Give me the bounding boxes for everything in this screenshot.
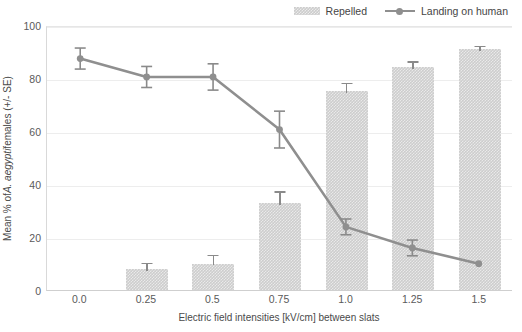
x-axis-title: Electric field intensities [kV/cm] betwe… xyxy=(46,312,512,323)
chart-legend: Repelled Landing on human xyxy=(0,2,522,20)
x-axis-tick-labels: 0.00.250.50.751.01.251.5 xyxy=(46,293,512,309)
line-data-point xyxy=(77,55,84,62)
x-tick-label: 0.5 xyxy=(205,293,220,305)
legend-label-landing-on-human: Landing on human xyxy=(421,5,508,17)
line-swatch-icon xyxy=(385,6,415,16)
y-tick-label: 0 xyxy=(35,285,41,297)
x-tick-label: 1.0 xyxy=(338,293,353,305)
line-data-point xyxy=(409,245,416,252)
x-tick-label: 1.25 xyxy=(402,293,422,305)
line-path xyxy=(80,59,479,264)
y-axis-title: Mean % of A. aegypti females (+/- SE) xyxy=(0,26,17,291)
line-data-point xyxy=(276,126,283,133)
line-data-point xyxy=(343,224,350,231)
legend-label-repelled: Repelled xyxy=(326,5,367,17)
y-tick-label: 60 xyxy=(29,126,41,138)
y-tick-label: 20 xyxy=(29,232,41,244)
x-tick-label: 0.75 xyxy=(269,293,289,305)
x-tick-label: 1.5 xyxy=(471,293,486,305)
y-tick-label: 100 xyxy=(23,20,41,32)
legend-item-landing-on-human: Landing on human xyxy=(385,5,508,17)
x-tick-label: 0.0 xyxy=(72,293,87,305)
bar-swatch-icon xyxy=(294,7,320,15)
line-series-landing-on-human xyxy=(47,27,512,290)
legend-item-repelled: Repelled xyxy=(294,5,367,17)
y-tick-label: 40 xyxy=(29,179,41,191)
line-data-point xyxy=(210,74,217,81)
plot-area xyxy=(46,26,512,291)
line-data-point xyxy=(475,260,482,267)
x-tick-label: 0.25 xyxy=(136,293,156,305)
y-tick-label: 80 xyxy=(29,73,41,85)
line-data-point xyxy=(143,74,150,81)
